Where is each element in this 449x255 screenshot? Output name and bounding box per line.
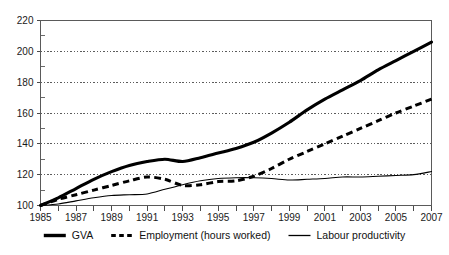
x-tick-label: 1987 — [65, 212, 88, 223]
y-tick-label: 180 — [17, 77, 34, 88]
data-series — [41, 42, 432, 205]
x-tick-label: 1989 — [100, 212, 123, 223]
legend-item: GVA — [44, 229, 93, 241]
x-tick-label: 2003 — [349, 212, 372, 223]
legend-label-labour-productivity: Labour productivity — [316, 229, 405, 241]
x-tick-label: 1985 — [29, 212, 52, 223]
x-tick-label: 1991 — [136, 212, 159, 223]
x-tick-label: 2007 — [420, 212, 443, 223]
y-tick-label: 140 — [17, 138, 34, 149]
x-axis-tick-labels: 1985198719891991199319951997199920012003… — [29, 212, 443, 223]
chart-container: 100120140160180200220 198519871989199119… — [0, 0, 449, 255]
chart-legend: GVAEmployment (hours worked)Labour produ… — [44, 229, 406, 241]
line-chart: 100120140160180200220 198519871989199119… — [0, 0, 449, 255]
series-line-gva — [41, 42, 432, 205]
legend-label-employment: Employment (hours worked) — [139, 229, 270, 241]
y-tick-label: 120 — [17, 169, 34, 180]
y-tick-label: 160 — [17, 108, 34, 119]
x-tick-label: 1993 — [172, 212, 195, 223]
x-tick-label: 1999 — [278, 212, 301, 223]
legend-item: Employment (hours worked) — [111, 229, 270, 241]
legend-item: Labour productivity — [288, 229, 405, 241]
gridlines — [41, 51, 432, 174]
y-tick-label: 220 — [17, 15, 34, 26]
legend-label-gva: GVA — [72, 229, 93, 241]
y-tick-label: 200 — [17, 46, 34, 57]
y-tick-label: 100 — [17, 200, 34, 211]
x-tick-label: 1997 — [243, 212, 266, 223]
x-tick-label: 1995 — [207, 212, 230, 223]
x-tick-label: 2005 — [385, 212, 408, 223]
y-axis-tick-labels: 100120140160180200220 — [17, 15, 34, 211]
x-tick-label: 2001 — [314, 212, 337, 223]
series-line-employment — [41, 99, 432, 205]
